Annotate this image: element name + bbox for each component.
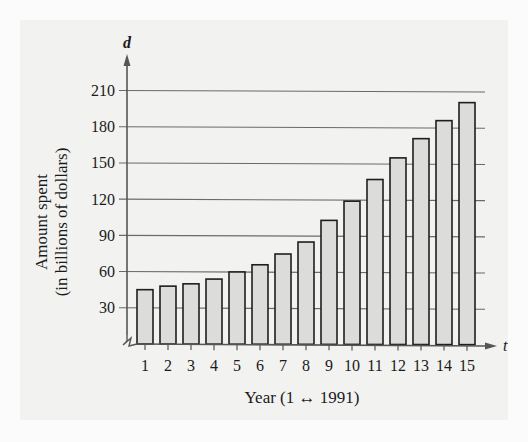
bar [183, 284, 199, 344]
x-tick-label: 5 [233, 357, 241, 374]
x-tick-label: 1 [141, 357, 149, 374]
y-axis-label-line1: Amount spent [32, 174, 51, 270]
x-axis-variable: t [503, 337, 508, 354]
x-tick-label: 3 [187, 357, 195, 374]
y-tick-label: 180 [91, 118, 115, 135]
bar [344, 201, 360, 344]
gridline [119, 235, 485, 237]
x-ticks: 123456789101112131415 [141, 344, 475, 374]
bar [321, 220, 337, 344]
gridline [119, 199, 485, 201]
y-tick-label: 120 [91, 191, 115, 208]
gridline [119, 91, 485, 93]
y-tick-label: 60 [99, 263, 115, 280]
x-tick-label: 7 [279, 357, 287, 374]
x-tick-label: 13 [413, 357, 429, 374]
x-tick-label: 14 [436, 357, 452, 374]
bar [137, 290, 153, 344]
x-tick-label: 6 [256, 357, 264, 374]
x-axis-label: Year (1 ↔ 1991) [245, 388, 360, 407]
bar [206, 279, 222, 344]
y-tick-labels: 306090120150180210 [91, 82, 115, 316]
bar [298, 242, 314, 344]
bar [436, 121, 452, 345]
x-tick-label: 12 [390, 357, 406, 374]
x-tick-label: 4 [210, 357, 218, 374]
x-tick-label: 15 [459, 357, 475, 374]
y-axis-label-line2: (in billions of dollars) [52, 148, 71, 297]
y-tick-label: 150 [91, 154, 115, 171]
x-tick-label: 10 [344, 357, 360, 374]
x-tick-label: 2 [164, 357, 172, 374]
bar [390, 158, 406, 345]
bar [160, 286, 176, 344]
y-tick-label: 210 [91, 82, 115, 99]
gridline [119, 127, 485, 128]
bar [252, 265, 268, 344]
x-axis-arrow-icon [485, 343, 497, 350]
bar [275, 254, 291, 344]
x-tick-label: 11 [367, 357, 382, 374]
bar [459, 103, 475, 345]
x-tick-label: 8 [302, 357, 310, 374]
gridline [119, 163, 485, 165]
y-axis-arrow-icon [124, 54, 131, 66]
y-tick-label: 30 [99, 299, 115, 316]
y-axis-variable: d [123, 34, 132, 51]
bar-chart: 306090120150180210 123456789101112131415… [0, 0, 528, 442]
bar [367, 180, 383, 345]
x-tick-label: 9 [325, 357, 333, 374]
bar [229, 272, 245, 344]
bar [413, 139, 429, 345]
y-tick-label: 90 [99, 227, 115, 244]
bars [137, 103, 475, 345]
axis-break-icon [123, 335, 137, 346]
